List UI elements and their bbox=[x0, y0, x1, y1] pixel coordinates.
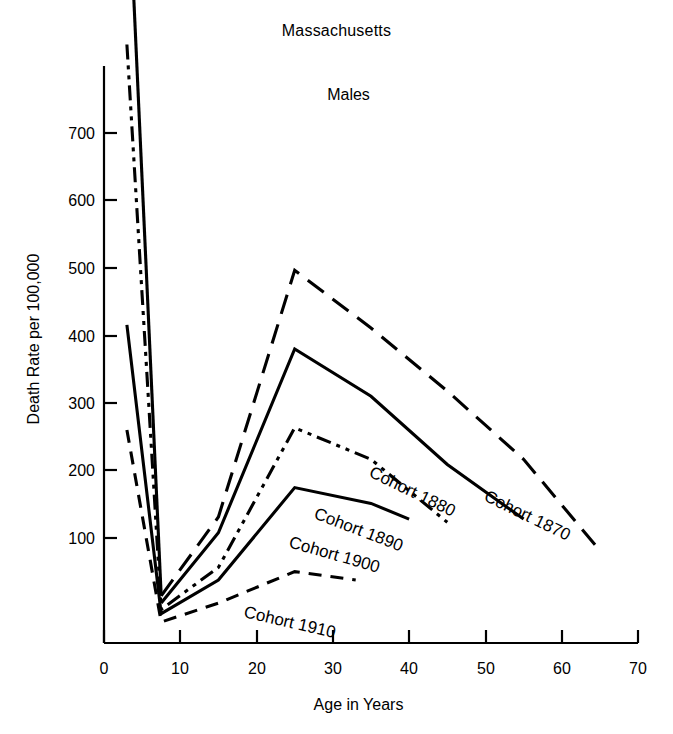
y-tick-label-400: 400 bbox=[68, 328, 95, 345]
x-tick-label-70: 70 bbox=[629, 660, 647, 677]
x-tick-label-10: 10 bbox=[171, 660, 189, 677]
y-tick-label-200: 200 bbox=[68, 462, 95, 479]
y-tick-labels: 700 600 500 400 300 200 100 bbox=[68, 125, 95, 547]
series-label-cohort-1870: Cohort 1870 bbox=[481, 487, 573, 545]
x-tick-label-40: 40 bbox=[400, 660, 418, 677]
y-tick-label-700: 700 bbox=[68, 125, 95, 142]
x-tick-label-50: 50 bbox=[477, 660, 495, 677]
x-tick-labels: 0 10 20 30 40 50 60 70 bbox=[100, 660, 647, 677]
x-tick-label-0: 0 bbox=[100, 660, 109, 677]
plot-area: 700 600 500 400 300 200 100 0 10 20 30 4… bbox=[0, 0, 673, 734]
x-tick-label-20: 20 bbox=[248, 660, 266, 677]
death-rate-chart: Massachusetts Males Death Rate per 100,0… bbox=[0, 0, 673, 734]
x-tick-label-30: 30 bbox=[324, 660, 342, 677]
y-tick-label-600: 600 bbox=[68, 192, 95, 209]
series-label-cohort-1880: Cohort 1880 bbox=[366, 463, 458, 521]
y-tick-marks bbox=[104, 133, 117, 538]
y-tick-label-300: 300 bbox=[68, 395, 95, 412]
y-tick-label-500: 500 bbox=[68, 260, 95, 277]
x-tick-label-60: 60 bbox=[553, 660, 571, 677]
y-tick-label-100: 100 bbox=[68, 530, 95, 547]
series-line-cohort-1890 bbox=[127, 45, 447, 610]
x-tick-marks bbox=[104, 630, 638, 643]
